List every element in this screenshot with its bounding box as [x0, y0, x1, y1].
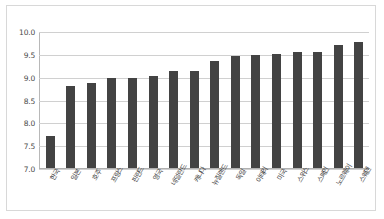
bar[interactable] — [149, 76, 158, 168]
bar-slot — [40, 32, 61, 168]
bar[interactable] — [334, 45, 343, 168]
x-label-slot: 미국 — [267, 170, 288, 212]
bar-slot — [143, 32, 164, 168]
bar-slot — [184, 32, 205, 168]
bar[interactable] — [354, 42, 363, 168]
x-label-slot: 노르웨이 — [329, 170, 350, 212]
y-axis-tick-label: 8.0 — [24, 119, 35, 128]
bar[interactable] — [210, 61, 219, 168]
bar[interactable] — [272, 54, 281, 168]
bar[interactable] — [87, 83, 96, 168]
bar-slot — [348, 32, 369, 168]
x-label-slot: 일본 — [61, 170, 82, 212]
bar-slot — [328, 32, 349, 168]
bar-slot — [266, 32, 287, 168]
bar[interactable] — [231, 56, 240, 168]
bar-slot — [205, 32, 226, 168]
x-label-slot: 스위스 — [288, 170, 309, 212]
bar[interactable] — [190, 71, 199, 168]
x-label-slot: 호주 — [81, 170, 102, 212]
bar[interactable] — [128, 78, 137, 168]
x-label-slot: 스웨덴 — [349, 170, 370, 212]
x-label-slot: 프랑스 — [102, 170, 123, 212]
y-axis-tick-label: 9.5 — [24, 50, 35, 59]
chart-frame: 10.09.59.08.58.07.57.0 한국일본호주프랑스핀란드영국네덜란… — [6, 5, 376, 211]
bar[interactable] — [46, 136, 55, 168]
bar-slot — [102, 32, 123, 168]
x-label-slot: 네덜란드 — [164, 170, 185, 212]
bar-slot — [246, 32, 267, 168]
bar[interactable] — [66, 86, 75, 168]
y-axis-tick-label: 7.5 — [24, 142, 35, 151]
bar[interactable] — [313, 52, 322, 169]
bar-slot — [163, 32, 184, 168]
bar-slot — [225, 32, 246, 168]
bar-slot — [287, 32, 308, 168]
bar-slot — [307, 32, 328, 168]
x-label-slot: 한국 — [40, 170, 61, 212]
plot-area: 10.09.59.08.58.07.57.0 — [39, 32, 369, 169]
bar-slot — [122, 32, 143, 168]
bar[interactable] — [107, 78, 116, 168]
bar-slot — [81, 32, 102, 168]
bar[interactable] — [293, 52, 302, 168]
bar[interactable] — [169, 71, 178, 168]
y-axis-tick-label: 10.0 — [19, 28, 35, 37]
x-axis-tick-labels: 한국일본호주프랑스핀란드영국네덜란드캐나다뉴질랜드독일이태리미국스위스스페인노르… — [40, 170, 370, 212]
x-label-slot: 스페인 — [308, 170, 329, 212]
x-label-slot: 캐나다 — [184, 170, 205, 212]
x-label-slot: 이태리 — [246, 170, 267, 212]
x-label-slot: 핀란드 — [123, 170, 144, 212]
x-label-slot: 뉴질랜드 — [205, 170, 226, 212]
y-axis-tick-label: 8.5 — [24, 96, 35, 105]
y-axis-tick-label: 9.0 — [24, 73, 35, 82]
x-label-slot: 독일 — [226, 170, 247, 212]
bar-slot — [61, 32, 82, 168]
y-axis-tick-label: 7.0 — [24, 165, 35, 174]
x-label-slot: 영국 — [143, 170, 164, 212]
bar-series — [40, 32, 369, 168]
bar[interactable] — [251, 55, 260, 168]
